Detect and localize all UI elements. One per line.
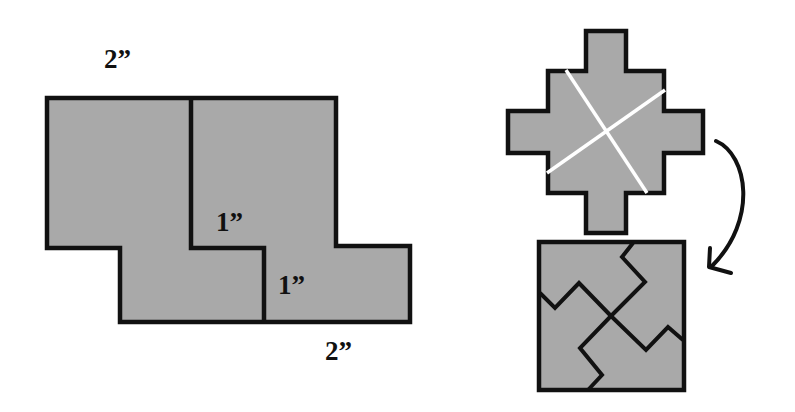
label-top-width: 2”: [104, 44, 131, 74]
right-figure-cross: [508, 31, 703, 233]
left-figure: 2” 1” 1” 2”: [47, 44, 410, 366]
label-inner-step-lower: 1”: [278, 270, 305, 300]
label-inner-step-upper: 1”: [216, 207, 243, 237]
label-bottom-width: 2”: [325, 336, 352, 366]
diagram-canvas: 2” 1” 1” 2”: [0, 0, 795, 412]
curved-arrow-icon: [709, 141, 743, 273]
right-figure-square: [539, 242, 684, 390]
